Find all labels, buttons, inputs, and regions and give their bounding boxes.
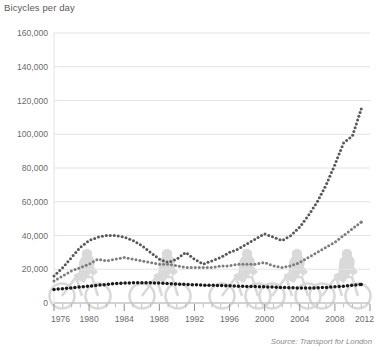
svg-text:1988: 1988 [150, 314, 169, 324]
chart-plot-area: 020,00040,00060,00080,000100,000120,0001… [0, 0, 378, 351]
svg-text:1996: 1996 [220, 314, 239, 324]
series-series-middle [53, 221, 363, 283]
svg-text:2008: 2008 [325, 314, 344, 324]
series-series-upper [53, 107, 363, 277]
svg-text:80,000: 80,000 [22, 163, 49, 173]
source-note: Source: Transport for London [271, 337, 372, 346]
svg-text:1992: 1992 [185, 314, 204, 324]
svg-text:0: 0 [43, 298, 48, 308]
svg-text:2012: 2012 [355, 314, 374, 324]
svg-text:1976: 1976 [51, 314, 70, 324]
svg-text:1984: 1984 [115, 314, 134, 324]
y-axis-labels: 020,00040,00060,00080,000100,000120,0001… [17, 28, 48, 308]
x-axis: 1976198019841988199219962000200420082012 [51, 303, 374, 324]
data-series-group [52, 107, 363, 291]
chart-container: Bicycles per day 020,00040,00060,0 [0, 0, 378, 351]
svg-text:40,000: 40,000 [22, 231, 49, 241]
svg-text:120,000: 120,000 [17, 96, 48, 106]
svg-text:60,000: 60,000 [22, 197, 49, 207]
svg-text:160,000: 160,000 [17, 28, 48, 38]
svg-text:1980: 1980 [80, 314, 99, 324]
cyclist-watermark-group [50, 249, 371, 309]
svg-text:20,000: 20,000 [22, 264, 49, 274]
svg-text:140,000: 140,000 [17, 62, 48, 72]
svg-text:100,000: 100,000 [17, 129, 48, 139]
gridlines [54, 33, 370, 303]
svg-text:2000: 2000 [255, 314, 274, 324]
svg-text:2004: 2004 [290, 314, 309, 324]
